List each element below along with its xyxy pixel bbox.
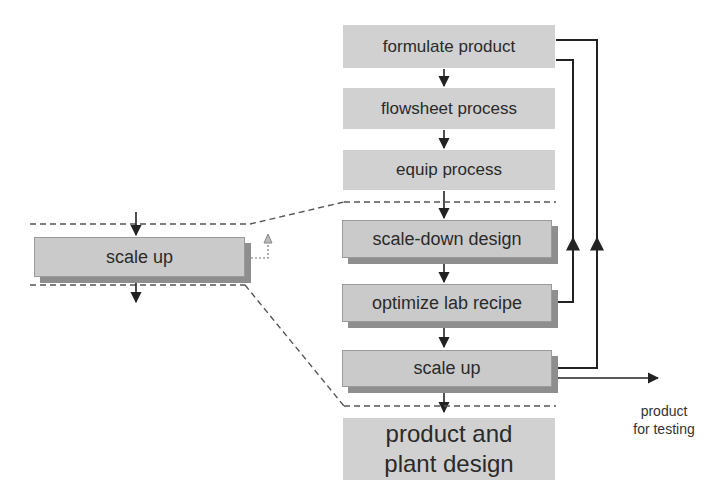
inset-dotted-feedback [251,242,268,258]
box-label: flowsheet process [381,99,517,119]
box-label-line2: plant design [384,449,513,479]
box-label-line1: product and [386,419,513,449]
output-label-line2: for testing [600,420,728,438]
box-product-and-plant-design: product and plant design [343,418,555,480]
feedback-loop-scaleup [554,40,597,368]
box-label: scale-down design [372,229,521,250]
output-label: product for testing [600,402,728,438]
feedback-loop-optimize [554,60,573,302]
inset-box-scale-up: scale up [34,237,245,277]
inset-hollow-arrowhead [264,234,272,243]
box-label: optimize lab recipe [372,293,522,314]
box-equip-process: equip process [343,150,555,190]
box-label: equip process [396,160,502,180]
box-label: formulate product [383,37,515,57]
box-flowsheet-process: flowsheet process [343,88,555,129]
box-optimize-lab-recipe: optimize lab recipe [342,284,552,322]
box-scale-up: scale up [342,350,552,387]
box-formulate-product: formulate product [343,25,555,68]
output-label-line1: product [600,402,728,420]
box-label: scale up [106,247,173,268]
box-scale-down-design: scale-down design [342,220,552,258]
box-label: scale up [413,358,480,379]
